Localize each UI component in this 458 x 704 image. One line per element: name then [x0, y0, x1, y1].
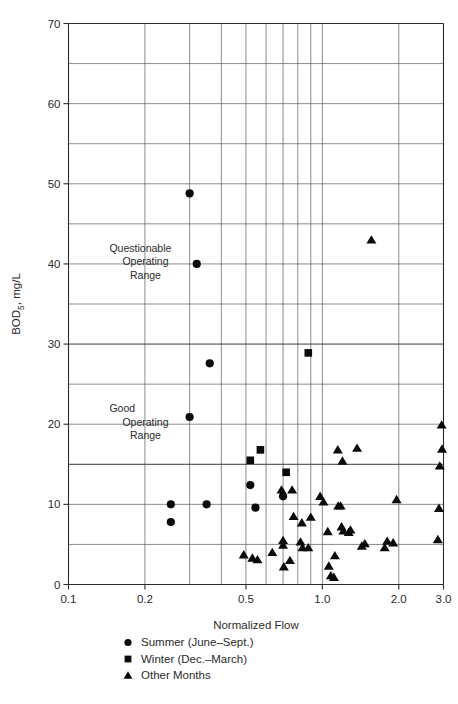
annotation-line: Operating	[122, 416, 168, 428]
data-point-circle	[186, 413, 194, 421]
data-point-triangle	[297, 518, 307, 526]
y-tick-labels: 010203040506070	[48, 18, 61, 591]
data-point-triangle	[392, 495, 402, 503]
y-tick-label: 50	[48, 178, 61, 190]
data-point-triangle	[433, 535, 443, 543]
data-point-triangle	[330, 551, 340, 559]
x-axis-title: Normalized Flow	[213, 619, 299, 631]
legend-label: Other Months	[141, 669, 211, 681]
data-point-triangle	[276, 485, 286, 493]
data-point-triangle	[437, 444, 447, 452]
y-tick-label: 10	[48, 498, 61, 510]
data-point-square	[257, 446, 265, 454]
data-point-triangle	[267, 548, 277, 556]
svg-text:BOD5, mg/L: BOD5, mg/L	[10, 273, 26, 335]
x-tick-label: 0.5	[238, 593, 254, 605]
data-point-circle	[186, 189, 194, 197]
y-tick-marks	[64, 24, 69, 585]
data-point-circle	[279, 492, 287, 500]
data-point-triangle	[366, 235, 376, 243]
data-point-circle	[246, 481, 254, 489]
data-point-circle	[203, 500, 211, 508]
data-point-circle	[206, 359, 214, 367]
data-point-square	[304, 349, 312, 357]
x-tick-labels: 0.10.20.51.02.03.0	[61, 593, 452, 605]
legend-marker-triangle	[124, 671, 133, 678]
series-summer-markers	[167, 189, 287, 526]
x-tick-marks	[69, 585, 444, 590]
y-tick-label: 40	[48, 258, 61, 270]
annotation-line: Range	[130, 269, 161, 281]
x-tick-label: 0.1	[61, 593, 77, 605]
series-winter-markers	[246, 349, 312, 476]
y-gridlines	[69, 64, 444, 545]
x-tick-label: 1.0	[314, 593, 330, 605]
data-point-triangle	[352, 444, 362, 452]
chart-legend: Summer (June–Sept.)Winter (Dec.–March)Ot…	[124, 636, 254, 681]
data-point-triangle	[333, 445, 343, 453]
legend-label: Winter (Dec.–March)	[141, 653, 247, 665]
data-point-triangle	[345, 525, 355, 533]
axis-titles: Normalized FlowBOD5, mg/L	[10, 273, 300, 631]
x-tick-label: 0.2	[137, 593, 153, 605]
data-point-triangle	[239, 550, 249, 558]
data-point-triangle	[295, 537, 305, 545]
y-tick-label: 30	[48, 338, 61, 350]
legend-label: Summer (June–Sept.)	[141, 636, 254, 648]
annotation-line: Operating	[122, 255, 168, 267]
data-point-square	[246, 456, 254, 464]
legend-item: Winter (Dec.–March)	[125, 653, 248, 665]
data-point-triangle	[434, 504, 444, 512]
good-operating-range: GoodOperatingRange	[109, 402, 168, 441]
legend-item: Summer (June–Sept.)	[124, 636, 253, 648]
data-point-circle	[251, 503, 259, 511]
data-point-circle	[193, 260, 201, 268]
annotation-line: Questionable	[109, 242, 171, 254]
x-tick-label: 2.0	[391, 593, 407, 605]
data-point-triangle	[287, 485, 297, 493]
questionable-operating-range: QuestionableOperatingRange	[109, 242, 171, 281]
legend-item: Other Months	[124, 669, 211, 681]
bod-vs-normalized-flow-figure: 0.10.20.51.02.03.0 010203040506070 Quest…	[0, 0, 458, 704]
y-tick-label: 20	[48, 418, 61, 430]
data-point-triangle	[323, 527, 333, 535]
y-tick-label: 70	[48, 18, 61, 30]
scatter-plot-svg: 0.10.20.51.02.03.0 010203040506070 Quest…	[0, 0, 458, 704]
data-point-triangle	[285, 556, 295, 564]
legend-marker-square	[125, 656, 132, 663]
y-axis-title: BOD5, mg/L	[10, 273, 26, 335]
data-point-circle	[167, 500, 175, 508]
range-annotations: QuestionableOperatingRangeGoodOperatingR…	[109, 242, 171, 441]
y-tick-label: 60	[48, 98, 61, 110]
data-point-square	[282, 469, 290, 477]
data-point-triangle	[306, 512, 316, 520]
annotation-line: Good	[109, 402, 135, 414]
series-other-months-markers	[239, 235, 447, 581]
y-tick-label: 0	[54, 579, 60, 591]
data-point-circle	[167, 518, 175, 526]
legend-marker-circle	[124, 639, 131, 646]
data-point-triangle	[324, 561, 334, 569]
data-point-triangle	[337, 456, 347, 464]
annotation-line: Range	[130, 429, 161, 441]
x-tick-label: 3.0	[436, 593, 452, 605]
data-point-triangle	[289, 512, 299, 520]
